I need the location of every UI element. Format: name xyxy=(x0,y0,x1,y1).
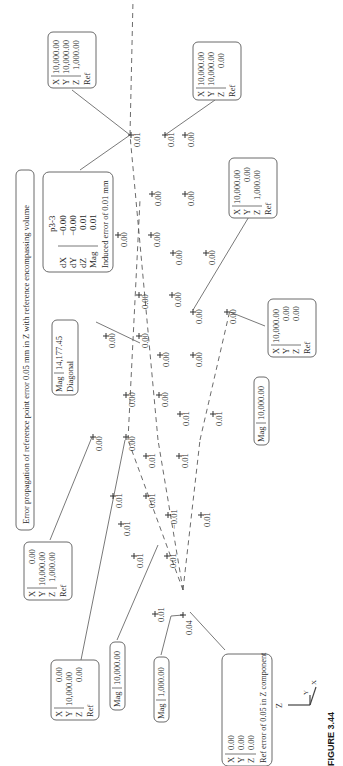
svg-text:10,000.00: 10,000.00 xyxy=(256,386,266,420)
svg-text:0.00: 0.00 xyxy=(228,309,238,324)
svg-text:0.00: 0.00 xyxy=(127,436,137,451)
svg-text:X: X xyxy=(226,757,236,763)
svg-text:0.00: 0.00 xyxy=(54,667,64,682)
data-point: 0.00 xyxy=(103,333,117,348)
svg-text:0.00: 0.00 xyxy=(140,294,150,309)
data-point: 0.00 xyxy=(136,333,150,348)
svg-text:Z: Z xyxy=(74,712,84,717)
svg-text:0.01: 0.01 xyxy=(166,132,176,147)
svg-text:p3-3: p3-3 xyxy=(47,215,57,232)
data-point: 0.00 xyxy=(182,191,196,206)
ref-box-xyz: X 10,000.00 Y 10,000.00 Z 1,000.00 Ref xyxy=(48,32,96,88)
data-point: 0.01 xyxy=(198,512,212,527)
mag-box-10000-upper: Mag 10,000.00 xyxy=(110,642,125,710)
svg-text:0.01: 0.01 xyxy=(202,512,212,527)
ref-box-xy: X 10,000.00 Y 10,000.00 Z 0.00 Ref xyxy=(193,42,241,100)
svg-text:0.01: 0.01 xyxy=(132,132,142,147)
svg-text:Ref: Ref xyxy=(85,705,95,717)
svg-text:−0.01: −0.01 xyxy=(169,509,179,529)
svg-text:0.01: 0.01 xyxy=(156,607,166,622)
data-point: 0.01 xyxy=(210,411,224,426)
svg-text:1,000.00: 1,000.00 xyxy=(252,170,262,200)
svg-text:1,000.00: 1,000.00 xyxy=(71,40,81,70)
svg-text:0.00: 0.00 xyxy=(140,333,150,348)
svg-text:Ref: Ref xyxy=(227,85,237,97)
axis-triad-icon: Z Y X xyxy=(275,680,318,708)
svg-text:0.00: 0.00 xyxy=(107,333,117,348)
svg-text:10,000.00: 10,000.00 xyxy=(61,40,71,74)
svg-text:0.00: 0.00 xyxy=(207,250,217,265)
svg-text:0.01: 0.01 xyxy=(180,453,190,468)
svg-text:0.04: 0.04 xyxy=(184,619,194,635)
svg-text:Y: Y xyxy=(64,711,74,717)
svg-text:Y: Y xyxy=(206,91,216,97)
data-point: 0.01 xyxy=(143,493,157,508)
svg-text:0.01: 0.01 xyxy=(88,214,98,230)
data-point: 0.04 xyxy=(180,612,194,635)
svg-text:0.00: 0.00 xyxy=(127,392,137,407)
svg-text:Z: Z xyxy=(71,80,81,85)
mag-box-1000: Mag 1,000.00 xyxy=(154,657,169,722)
svg-text:Mag: Mag xyxy=(112,691,122,707)
svg-text:0.00: 0.00 xyxy=(242,167,252,182)
svg-text:0.00: 0.00 xyxy=(153,191,163,206)
svg-text:0.00: 0.00 xyxy=(94,436,104,451)
svg-text:X: X xyxy=(27,591,37,597)
data-point: 0.00 xyxy=(182,132,196,147)
point-info-box: p3-3 dX −0.00 dY −0.00 dZ 0.01 Mag 0.01 … xyxy=(43,172,113,272)
data-point: 0.01 xyxy=(162,132,176,147)
svg-text:Y: Y xyxy=(242,209,252,215)
svg-text:0.00: 0.00 xyxy=(27,549,37,564)
svg-text:Mag: Mag xyxy=(54,376,64,392)
data-point: 0.00 xyxy=(224,309,238,324)
svg-text:0.00: 0.00 xyxy=(152,232,162,247)
svg-text:14,177.45: 14,177.45 xyxy=(54,336,64,370)
svg-text:−0.00: −0.00 xyxy=(68,215,78,236)
svg-text:Y: Y xyxy=(61,79,71,85)
svg-text:0.00: 0.00 xyxy=(186,132,196,147)
svg-text:Z: Z xyxy=(291,349,301,354)
svg-text:0.00: 0.00 xyxy=(281,306,291,321)
svg-text:−0.00: −0.00 xyxy=(58,215,68,236)
svg-text:X: X xyxy=(196,91,206,97)
svg-text:Ref error of 0.05 in Z compone: Ref error of 0.05 in Z component xyxy=(259,652,268,763)
svg-text:Ref: Ref xyxy=(58,585,68,597)
ref-box-x: X 10,000.00 Y 0.00 Z 0.00 Ref xyxy=(268,299,316,357)
mag-box-10000-lower: Mag 10,000.00 xyxy=(254,377,269,445)
ref-box-y: X 0.00 Y 10,000.00 Z 0.00 Ref xyxy=(51,660,99,720)
data-point: 0.00 xyxy=(148,232,162,247)
svg-text:Mag: Mag xyxy=(156,703,166,719)
svg-text:0.00: 0.00 xyxy=(186,191,196,206)
diagram-title: Error propagation of reference point err… xyxy=(21,205,31,524)
svg-text:0.00: 0.00 xyxy=(174,250,184,265)
svg-text:Ref: Ref xyxy=(263,203,273,215)
svg-text:Ref: Ref xyxy=(82,73,92,85)
svg-text:Z: Z xyxy=(47,592,57,597)
data-point: 0.01 xyxy=(143,453,157,468)
svg-text:10,000.00: 10,000.00 xyxy=(64,672,74,706)
svg-text:0.00: 0.00 xyxy=(161,352,171,367)
svg-text:X: X xyxy=(51,79,61,85)
svg-text:1,000.00: 1,000.00 xyxy=(47,552,57,582)
svg-text:dZ: dZ xyxy=(78,258,88,268)
data-point: 0.01 xyxy=(118,521,132,536)
svg-text:0.00: 0.00 xyxy=(160,392,170,407)
svg-text:Z: Z xyxy=(246,758,256,763)
svg-text:X: X xyxy=(232,209,242,215)
data-point: 0.00 xyxy=(115,232,129,247)
data-point: 0.00 xyxy=(156,392,170,407)
svg-text:X: X xyxy=(54,711,64,717)
svg-text:0.00: 0.00 xyxy=(236,735,246,750)
svg-text:0.01: 0.01 xyxy=(78,214,88,230)
svg-text:0.00: 0.00 xyxy=(173,292,183,307)
svg-text:X: X xyxy=(310,680,318,685)
svg-text:10,000.00: 10,000.00 xyxy=(206,52,216,86)
svg-text:0.01: 0.01 xyxy=(122,521,132,536)
svg-text:0.01: 0.01 xyxy=(147,493,157,508)
svg-text:0.01: 0.01 xyxy=(181,411,191,426)
data-point: 0.00 xyxy=(123,434,137,451)
ref-box-yz: X 0.00 Y 10,000.00 Z 1,000.00 Ref xyxy=(24,542,72,600)
data-point: 0.00 xyxy=(170,250,184,265)
svg-text:0.00: 0.00 xyxy=(216,53,226,68)
data-point: −0.01 xyxy=(165,509,179,529)
